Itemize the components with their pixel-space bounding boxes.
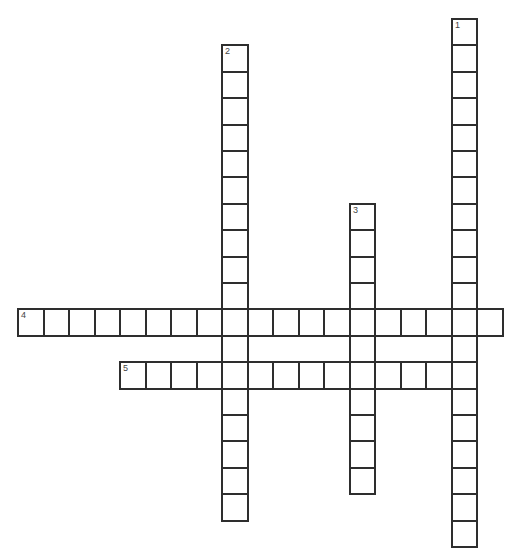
crossword-cell[interactable] — [451, 124, 478, 152]
cell-input[interactable] — [274, 363, 298, 388]
crossword-cell[interactable] — [221, 282, 249, 310]
cell-input[interactable] — [453, 390, 476, 414]
cell-input[interactable] — [351, 416, 374, 440]
crossword-cell[interactable] — [298, 308, 325, 337]
crossword-cell[interactable] — [221, 97, 249, 126]
cell-input[interactable] — [325, 363, 349, 388]
crossword-cell[interactable] — [298, 361, 325, 390]
crossword-cell[interactable] — [451, 97, 478, 126]
cell-input[interactable] — [249, 363, 272, 388]
cell-input[interactable] — [453, 363, 476, 388]
cell-input[interactable] — [453, 522, 476, 546]
cell-input[interactable] — [121, 310, 145, 335]
crossword-cell[interactable]: 4 — [17, 308, 45, 337]
cell-input[interactable] — [223, 469, 247, 493]
crossword-cell[interactable] — [451, 44, 478, 73]
crossword-cell[interactable] — [221, 124, 249, 152]
cell-input[interactable] — [223, 126, 247, 150]
crossword-cell[interactable] — [451, 388, 478, 416]
cell-input[interactable] — [223, 390, 247, 414]
cell-input[interactable] — [453, 231, 476, 256]
cell-input[interactable] — [453, 442, 476, 467]
crossword-cell[interactable] — [221, 414, 249, 442]
crossword-cell[interactable] — [451, 282, 478, 310]
cell-input[interactable] — [300, 310, 323, 335]
crossword-cell[interactable] — [145, 361, 172, 390]
cell-input[interactable] — [96, 310, 119, 335]
cell-input[interactable] — [223, 258, 247, 282]
cell-input[interactable] — [427, 363, 451, 388]
cell-input[interactable] — [402, 363, 425, 388]
crossword-cell[interactable] — [221, 229, 249, 258]
cell-input[interactable] — [351, 258, 374, 282]
cell-input[interactable] — [351, 310, 374, 335]
crossword-cell[interactable] — [221, 361, 249, 390]
crossword-cell[interactable] — [221, 467, 249, 495]
cell-input[interactable] — [351, 231, 374, 256]
crossword-cell[interactable] — [349, 467, 376, 495]
crossword-cell[interactable] — [43, 308, 70, 337]
crossword-cell[interactable] — [451, 361, 478, 390]
crossword-cell[interactable] — [451, 71, 478, 99]
crossword-cell[interactable] — [221, 203, 249, 231]
crossword-cell[interactable] — [374, 361, 402, 390]
crossword-cell[interactable] — [221, 493, 249, 522]
cell-input[interactable] — [453, 284, 476, 308]
crossword-cell[interactable] — [221, 150, 249, 178]
cell-input[interactable] — [351, 205, 374, 229]
cell-input[interactable] — [121, 363, 145, 388]
cell-input[interactable] — [198, 310, 221, 335]
crossword-cell[interactable] — [349, 335, 376, 363]
cell-input[interactable] — [351, 363, 374, 388]
crossword-cell[interactable] — [400, 308, 427, 337]
cell-input[interactable] — [453, 20, 476, 44]
crossword-cell[interactable] — [119, 308, 147, 337]
crossword-cell[interactable]: 2 — [221, 44, 249, 73]
cell-input[interactable] — [453, 178, 476, 203]
cell-input[interactable] — [453, 152, 476, 176]
cell-input[interactable] — [351, 390, 374, 414]
cell-input[interactable] — [223, 152, 247, 176]
crossword-cell[interactable] — [145, 308, 172, 337]
cell-input[interactable] — [300, 363, 323, 388]
crossword-cell[interactable]: 5 — [119, 361, 147, 390]
crossword-cell[interactable] — [221, 176, 249, 205]
crossword-cell[interactable] — [349, 361, 376, 390]
crossword-cell[interactable] — [451, 176, 478, 205]
cell-input[interactable] — [453, 416, 476, 440]
crossword-cell[interactable] — [349, 414, 376, 442]
crossword-cell[interactable] — [425, 361, 453, 390]
cell-input[interactable] — [223, 231, 247, 256]
crossword-cell[interactable] — [451, 150, 478, 178]
cell-input[interactable] — [223, 495, 247, 520]
cell-input[interactable] — [45, 310, 68, 335]
cell-input[interactable] — [453, 126, 476, 150]
cell-input[interactable] — [223, 205, 247, 229]
crossword-cell[interactable] — [196, 361, 223, 390]
crossword-cell[interactable] — [451, 414, 478, 442]
crossword-cell[interactable] — [221, 308, 249, 337]
crossword-cell[interactable]: 3 — [349, 203, 376, 231]
crossword-cell[interactable] — [247, 361, 274, 390]
cell-input[interactable] — [453, 73, 476, 97]
cell-input[interactable] — [351, 284, 374, 308]
crossword-cell[interactable] — [349, 229, 376, 258]
crossword-cell[interactable] — [170, 361, 198, 390]
cell-input[interactable] — [453, 310, 476, 335]
cell-input[interactable] — [325, 310, 349, 335]
cell-input[interactable] — [19, 310, 43, 335]
crossword-cell[interactable] — [349, 388, 376, 416]
cell-input[interactable] — [147, 310, 170, 335]
crossword-cell[interactable] — [272, 308, 300, 337]
cell-input[interactable] — [453, 337, 476, 361]
crossword-cell[interactable] — [425, 308, 453, 337]
crossword-cell[interactable]: 1 — [451, 18, 478, 46]
crossword-cell[interactable] — [247, 308, 274, 337]
cell-input[interactable] — [172, 310, 196, 335]
crossword-cell[interactable] — [451, 520, 478, 548]
crossword-cell[interactable] — [323, 308, 351, 337]
cell-input[interactable] — [223, 99, 247, 124]
crossword-cell[interactable] — [451, 203, 478, 231]
crossword-cell[interactable] — [170, 308, 198, 337]
cell-input[interactable] — [249, 310, 272, 335]
